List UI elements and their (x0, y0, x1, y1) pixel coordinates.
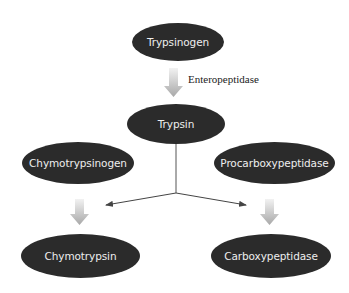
node-carboxypeptidase: Carboxypeptidase (211, 234, 331, 278)
node-procarboxypeptidase: Procarboxypeptidase (214, 142, 335, 184)
node-trypsin: Trypsin (127, 104, 225, 144)
node-label: Chymotrypsinogen (29, 157, 127, 169)
node-label: Carboxypeptidase (224, 250, 318, 262)
node-label: Chymotrypsin (44, 250, 116, 262)
node-chymotrypsinogen: Chymotrypsinogen (22, 142, 134, 184)
node-label: Trypsin (158, 118, 194, 130)
edge-label-enteropeptidase: Enteropeptidase (188, 73, 259, 85)
node-trypsinogen: Trypsinogen (132, 23, 224, 61)
node-label: Procarboxypeptidase (220, 157, 328, 169)
down-arrow-icon (260, 199, 279, 225)
down-arrow-icon (70, 199, 89, 225)
node-chymotrypsin: Chymotrypsin (21, 234, 140, 278)
down-arrow-icon (164, 68, 183, 97)
node-label: Trypsinogen (147, 36, 209, 48)
